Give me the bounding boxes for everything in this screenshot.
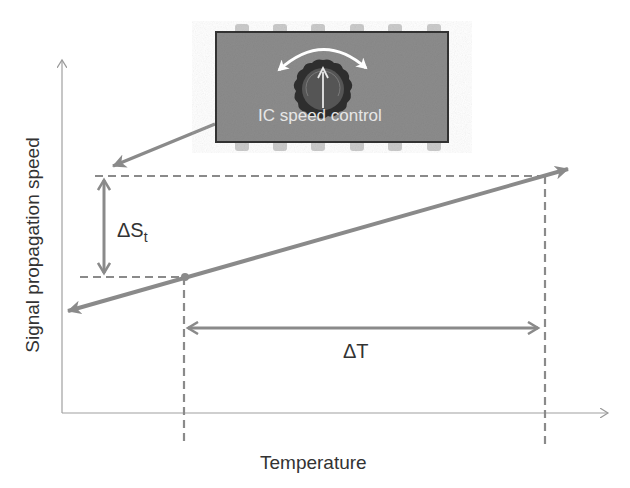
- delta-t-label: ΔT: [343, 340, 369, 363]
- delta-s-text: ΔS: [117, 219, 144, 241]
- chip-label: IC speed control: [258, 106, 382, 126]
- diagram-canvas: [0, 0, 630, 488]
- delta-s-label: ΔSt: [117, 219, 148, 245]
- chip-pointer-arrow: [113, 124, 215, 166]
- operating-point-marker: [181, 273, 189, 281]
- reference-lines: [80, 176, 545, 446]
- x-axis-label: Temperature: [260, 452, 367, 474]
- y-axis-label: Signal propagation speed: [22, 137, 44, 353]
- delta-s-subscript: t: [144, 229, 148, 245]
- ic-chip: [216, 24, 448, 151]
